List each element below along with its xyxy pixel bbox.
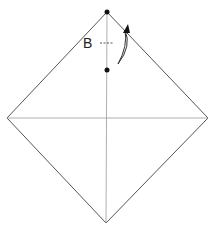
vertical-crease <box>106 12 107 223</box>
origami-diagram: B <box>0 0 209 231</box>
diamond-outline <box>7 12 208 223</box>
fold-target-dot <box>105 68 110 73</box>
fold-arrow-icon <box>118 30 127 64</box>
diagram-svg <box>0 0 209 231</box>
top-dot <box>105 10 110 15</box>
arrow-head-icon <box>123 24 130 33</box>
point-label-b: B <box>83 35 92 51</box>
